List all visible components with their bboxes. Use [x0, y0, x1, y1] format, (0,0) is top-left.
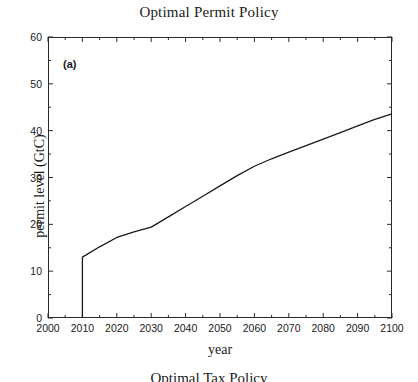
next-figure-title: Optimal Tax Policy [0, 370, 418, 382]
y-axis-label: permit level (GtC) [32, 66, 48, 306]
figure-panel-a: Optimal Permit Policy 0102030405060 2000… [0, 0, 418, 382]
x-axis-label: year [48, 342, 392, 358]
x-tick-label: 2100 [372, 322, 412, 334]
panel-label: (a) [63, 58, 76, 70]
